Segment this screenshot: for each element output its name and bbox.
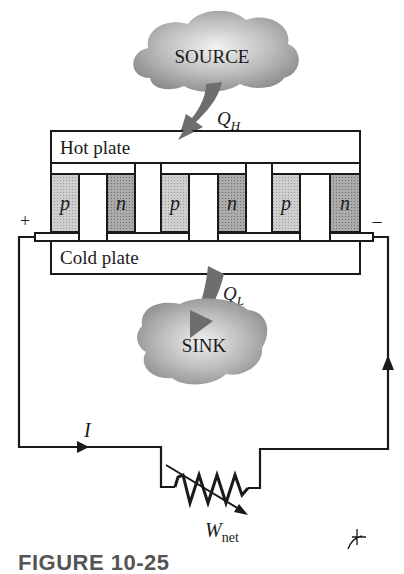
sink-label: SINK [182, 335, 227, 356]
source-label: SOURCE [175, 46, 250, 67]
element-label: n [340, 192, 350, 214]
cold-plate-label: Cold plate [60, 247, 139, 268]
positive-terminal-label: + [20, 211, 30, 231]
hot-plate-label: Hot plate [60, 137, 130, 158]
element-label: n [116, 192, 126, 214]
current-label: I [83, 419, 92, 441]
element-label: p [168, 192, 180, 215]
element-label: n [227, 192, 237, 214]
stray-mark [348, 529, 366, 549]
element-label: p [58, 192, 70, 215]
work-label: Wnet [205, 519, 239, 545]
heat-in-label: QH [217, 108, 241, 133]
figure-caption: FIGURE 10-25 [18, 550, 170, 574]
bottom-connectors [35, 174, 373, 241]
sink-cloud: SINK [137, 299, 267, 385]
current-direction-arrow-icon [77, 441, 89, 453]
source-cloud: SOURCE [133, 11, 299, 92]
current-up-arrow-icon [382, 355, 394, 370]
element-label: p [279, 192, 291, 215]
negative-terminal-label: – [372, 211, 383, 231]
